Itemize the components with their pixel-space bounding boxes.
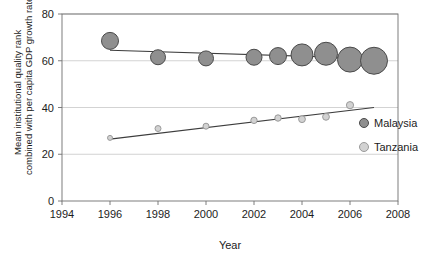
y-axis-title-line2: combined with per capita GDP growth rate bbox=[23, 0, 34, 175]
bubble-malaysia[interactable] bbox=[291, 44, 313, 66]
x-axis-title: Year bbox=[219, 239, 242, 251]
bubble-chart: 0204060801994199619982000200220042006200… bbox=[0, 0, 431, 264]
bubble-tanzania[interactable] bbox=[346, 102, 353, 109]
bubble-malaysia[interactable] bbox=[315, 42, 338, 65]
bubble-tanzania[interactable] bbox=[155, 126, 161, 132]
trendline-tanzania bbox=[110, 108, 374, 140]
y-tick-label: 80 bbox=[42, 8, 54, 20]
x-tick-label: 1998 bbox=[146, 208, 170, 220]
bubble-malaysia[interactable] bbox=[361, 47, 388, 74]
x-tick-label: 2008 bbox=[386, 208, 410, 220]
x-tick-label: 2004 bbox=[290, 208, 314, 220]
bubble-tanzania[interactable] bbox=[108, 135, 113, 140]
y-tick-label: 20 bbox=[42, 148, 54, 160]
y-tick-label: 0 bbox=[48, 195, 54, 207]
legend-label-malaysia[interactable]: Malaysia bbox=[374, 117, 418, 129]
bubble-malaysia[interactable] bbox=[246, 49, 262, 65]
x-tick-label: 1994 bbox=[50, 208, 74, 220]
legend-marker-tanzania bbox=[360, 143, 369, 152]
bubble-tanzania[interactable] bbox=[299, 116, 306, 123]
bubble-malaysia[interactable] bbox=[199, 51, 214, 66]
bubble-malaysia[interactable] bbox=[338, 47, 363, 72]
x-tick-label: 2006 bbox=[338, 208, 362, 220]
bubble-tanzania[interactable] bbox=[323, 113, 330, 120]
bubble-malaysia[interactable] bbox=[270, 48, 287, 65]
bubble-tanzania[interactable] bbox=[275, 115, 281, 121]
x-tick-label: 2002 bbox=[242, 208, 266, 220]
y-tick-label: 60 bbox=[42, 55, 54, 67]
legend-label-tanzania[interactable]: Tanzania bbox=[374, 141, 419, 153]
x-tick-label: 2000 bbox=[194, 208, 218, 220]
bubble-malaysia[interactable] bbox=[102, 32, 119, 49]
bubble-malaysia[interactable] bbox=[151, 50, 166, 65]
y-axis-title-line1: Mean institutional quality rank bbox=[12, 30, 23, 155]
bubble-tanzania[interactable] bbox=[251, 117, 257, 123]
chart-container: 0204060801994199619982000200220042006200… bbox=[0, 0, 431, 264]
y-tick-label: 40 bbox=[42, 102, 54, 114]
legend-marker-malaysia bbox=[360, 119, 369, 128]
bubble-tanzania[interactable] bbox=[203, 123, 209, 129]
x-tick-label: 1996 bbox=[98, 208, 122, 220]
